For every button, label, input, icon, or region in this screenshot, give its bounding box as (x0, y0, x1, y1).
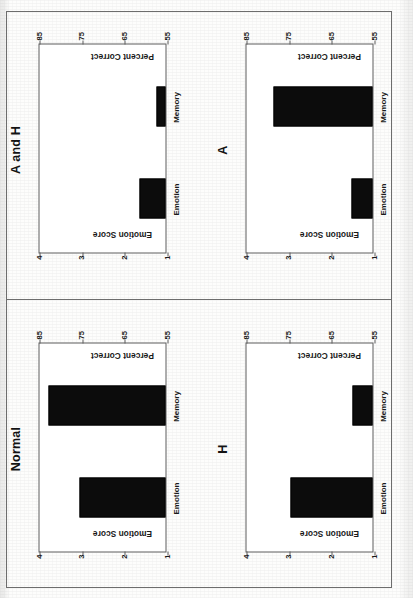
tick-label-percent-correct: 65 (326, 25, 335, 40)
tick-label-emotion-score: 2 (119, 255, 128, 269)
tickmark-percent-correct (124, 40, 125, 44)
tickmark-percent-correct (124, 339, 125, 343)
tickmark-percent-correct (167, 40, 168, 44)
tick-label-percent-correct: 85 (34, 25, 43, 40)
tick-label-percent-correct: 65 (326, 324, 335, 339)
tickmark-percent-correct (289, 339, 290, 343)
tick-label-emotion-score: 1 (369, 554, 378, 568)
category-label-emotion: Emotion (171, 167, 180, 231)
tick-label-emotion-score: 2 (119, 554, 128, 568)
tick-label-percent-correct: 55 (162, 25, 171, 40)
axis-title-emotion-score: Emotion Score (265, 229, 393, 239)
tick-label-percent-correct: 55 (369, 25, 378, 40)
bar-memory (156, 86, 165, 126)
category-label-emotion: Emotion (378, 167, 387, 231)
panel-cell-normal: Normal123455657585Emotion ScorePercent C… (0, 299, 206, 598)
tick-label-percent-correct: 55 (162, 324, 171, 339)
axis-title-emotion-score: Emotion Score (58, 528, 186, 538)
tick-label-percent-correct: 85 (34, 324, 43, 339)
tick-label-emotion-score: 2 (326, 255, 335, 269)
tick-label-percent-correct: 55 (369, 324, 378, 339)
tick-label-percent-correct: 65 (119, 324, 128, 339)
panel-title: H (215, 299, 229, 598)
bar-emotion (290, 477, 372, 517)
tickmark-percent-correct (39, 40, 40, 44)
axis-title-percent-correct: Percent Correct (58, 51, 186, 61)
plot-area: 123455657585Emotion ScorePercent Correct (245, 43, 373, 253)
plot-area: 123455657585Emotion ScorePercent Correct (38, 342, 166, 552)
tick-label-emotion-score: 4 (34, 554, 43, 568)
axis-title-percent-correct: Percent Correct (265, 350, 393, 360)
tick-label-percent-correct: 85 (241, 25, 250, 40)
category-label-memory: Memory (171, 75, 180, 139)
panel-title: A and H (8, 0, 22, 299)
category-label-memory: Memory (171, 374, 180, 438)
tick-label-percent-correct: 75 (76, 25, 85, 40)
tick-label-emotion-score: 1 (369, 255, 378, 269)
chart-panel-h: H123455657585Emotion ScorePercent Correc… (207, 299, 413, 598)
chart-panel-normal: Normal123455657585Emotion ScorePercent C… (0, 299, 206, 598)
tick-label-percent-correct: 75 (283, 25, 292, 40)
bar-memory (352, 385, 372, 425)
bar-memory (48, 385, 165, 425)
bar-emotion (139, 178, 165, 218)
tickmark-percent-correct (167, 339, 168, 343)
tick-label-emotion-score: 3 (283, 255, 292, 269)
plot-area: 123455657585Emotion ScorePercent Correct (245, 342, 373, 552)
tick-label-emotion-score: 3 (283, 554, 292, 568)
tickmark-percent-correct (331, 339, 332, 343)
panel-cell-h: H123455657585Emotion ScorePercent Correc… (207, 299, 413, 598)
tick-label-emotion-score: 4 (34, 255, 43, 269)
category-label-emotion: Emotion (378, 466, 387, 530)
bar-memory (273, 86, 372, 126)
tickmark-percent-correct (246, 40, 247, 44)
tick-label-percent-correct: 75 (283, 324, 292, 339)
scanned-page: A and H123455657585Emotion ScorePercent … (0, 0, 413, 598)
category-label-memory: Memory (378, 75, 387, 139)
tick-label-percent-correct: 75 (76, 324, 85, 339)
plot-area: 123455657585Emotion ScorePercent Correct (38, 43, 166, 253)
panel-cell-a-and-h: A and H123455657585Emotion ScorePercent … (0, 0, 206, 299)
tick-label-emotion-score: 4 (241, 255, 250, 269)
tick-label-emotion-score: 3 (76, 554, 85, 568)
tickmark-percent-correct (82, 339, 83, 343)
tickmark-percent-correct (82, 40, 83, 44)
axis-title-percent-correct: Percent Correct (58, 350, 186, 360)
tickmark-percent-correct (246, 339, 247, 343)
tickmark-percent-correct (374, 339, 375, 343)
category-label-emotion: Emotion (171, 466, 180, 530)
tickmark-percent-correct (39, 339, 40, 343)
tick-label-emotion-score: 1 (162, 255, 171, 269)
tickmark-percent-correct (374, 40, 375, 44)
tick-label-emotion-score: 4 (241, 554, 250, 568)
axis-title-emotion-score: Emotion Score (265, 528, 393, 538)
tick-label-emotion-score: 3 (76, 255, 85, 269)
panel-title: Normal (8, 299, 22, 598)
category-label-memory: Memory (378, 374, 387, 438)
tick-label-emotion-score: 1 (162, 554, 171, 568)
tick-label-emotion-score: 2 (326, 554, 335, 568)
panel-cell-a: A123455657585Emotion ScorePercent Correc… (207, 0, 413, 299)
tickmark-percent-correct (331, 40, 332, 44)
tick-label-percent-correct: 85 (241, 324, 250, 339)
chart-panel-a: A123455657585Emotion ScorePercent Correc… (207, 0, 413, 299)
chart-panel-a-and-h: A and H123455657585Emotion ScorePercent … (0, 0, 206, 299)
bar-emotion (351, 178, 372, 218)
tickmark-percent-correct (289, 40, 290, 44)
axis-title-percent-correct: Percent Correct (265, 51, 393, 61)
tick-label-percent-correct: 65 (119, 25, 128, 40)
panel-title: A (215, 0, 229, 299)
axis-title-emotion-score: Emotion Score (58, 229, 186, 239)
bar-emotion (79, 477, 165, 517)
